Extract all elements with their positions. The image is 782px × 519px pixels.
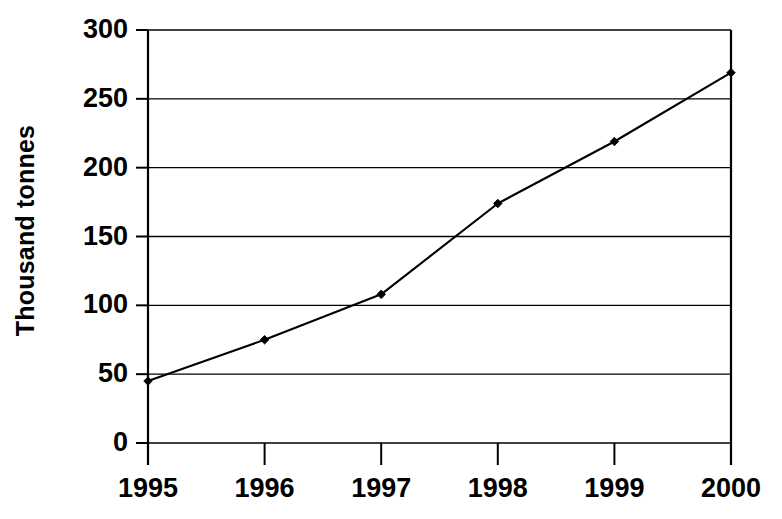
line-chart: Thousand tonnes 050100150200250300 19951… — [0, 0, 782, 519]
series-line — [148, 73, 731, 381]
data-point-marker — [144, 377, 152, 385]
x-axis-ticks — [148, 443, 731, 465]
data-point-marker — [260, 336, 268, 344]
data-line-series — [148, 73, 731, 381]
gridlines — [148, 30, 731, 443]
axis-lines — [148, 30, 731, 465]
data-point-markers — [144, 68, 735, 385]
plot-area — [0, 0, 782, 519]
